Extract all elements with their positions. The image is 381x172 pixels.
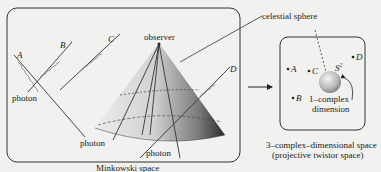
- twistor-caption-2: (projective twistor space): [272, 151, 363, 160]
- celestial-sphere-label: celestial sphere: [262, 12, 317, 21]
- minkowski-caption: Minkowski space: [96, 164, 159, 172]
- ray-label-c: C: [108, 35, 114, 44]
- photon-label-3: photon: [146, 149, 171, 158]
- ray-label-b: B: [60, 41, 66, 50]
- celestial-pointer: [180, 16, 262, 62]
- photon-label-2: photon: [80, 139, 105, 148]
- point-c: C: [312, 67, 318, 76]
- observer-label: observer: [144, 33, 175, 42]
- point-a: A: [291, 65, 297, 74]
- point-d: D: [356, 53, 363, 62]
- sphere-label: S2: [335, 62, 343, 73]
- photon-label-1: photon: [12, 94, 37, 103]
- dimension-label-2: dimension: [312, 105, 350, 114]
- point-b: B: [296, 94, 302, 103]
- ray-label-d: D: [230, 65, 237, 74]
- dimension-label-1: 1–complex: [309, 95, 349, 104]
- ray-label-a: A: [17, 51, 23, 60]
- celestial-sphere: [319, 71, 341, 93]
- twistor-caption-1: 3–complex–dimensional space: [266, 141, 377, 150]
